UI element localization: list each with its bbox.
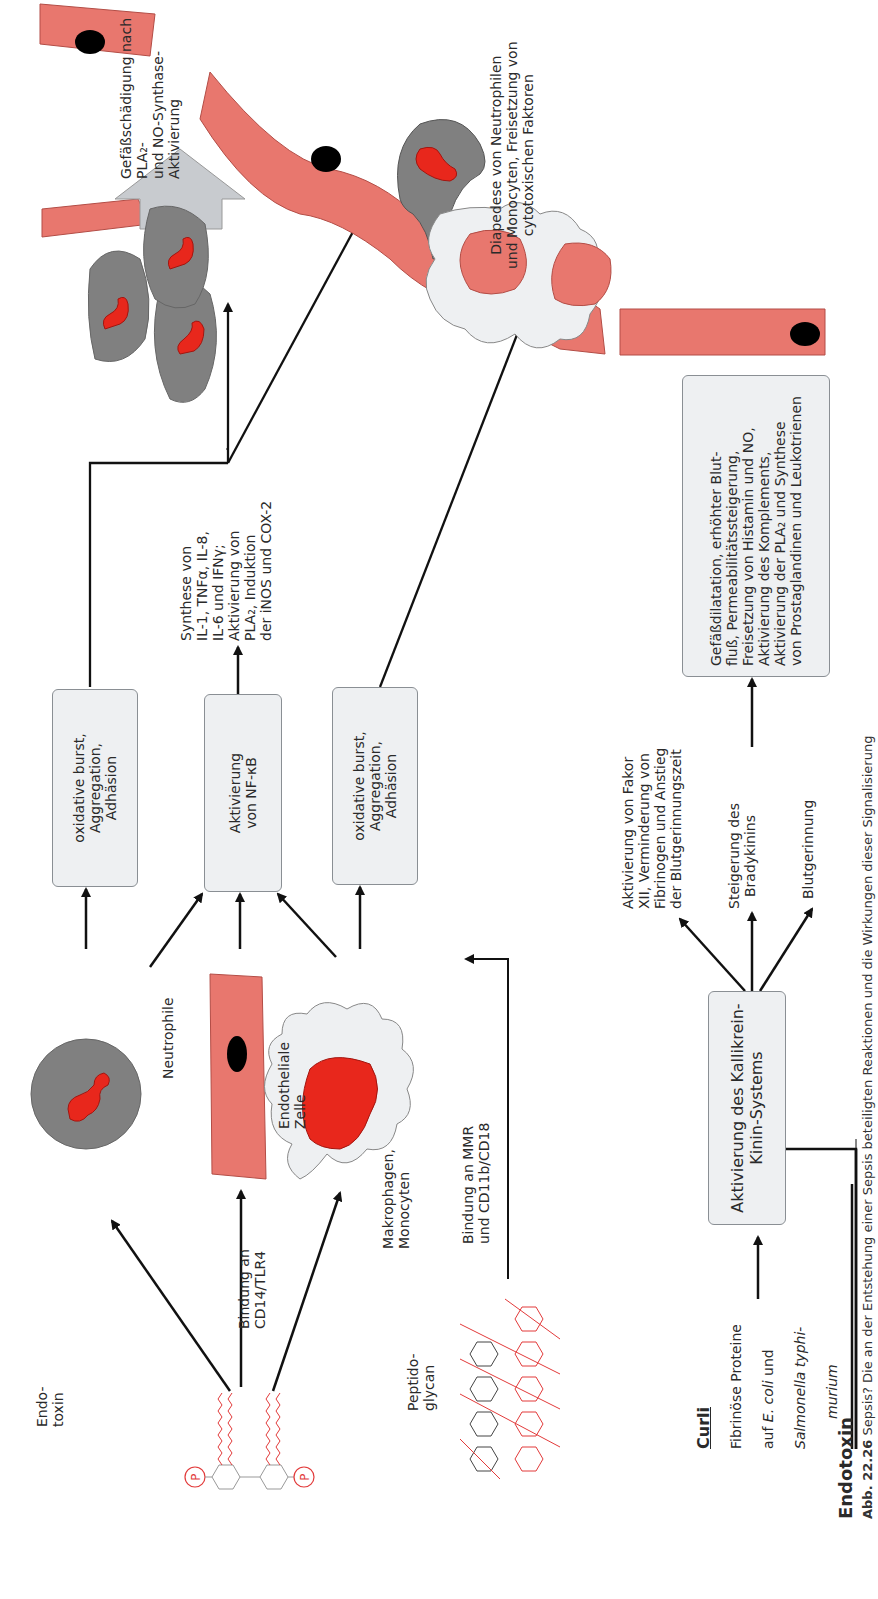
curli-line2-pre: auf [760,1422,776,1449]
svg-text:P: P [189,1473,203,1480]
box-nfkb-activation: Aktivierung von NF-κB [204,694,282,892]
endotoxin-bottom-label: Endotoxin [838,1417,854,1519]
diapedesis-text: Diapedese von Neutrophilen und Monocyten… [488,41,536,269]
box-kallikrein-kinin: Aktivierung des Kallikrein- Kinin-System… [708,991,786,1225]
neutrophile-label: Neutrophile [160,997,176,1079]
arrow-kallikrein-blutgerinnung [760,909,812,991]
curli-murium: murium [824,1364,840,1419]
arrow-burst-to-macrophages [380,327,520,687]
peptidoglycan-label: Peptido- glycan [405,1353,437,1411]
neutrophil-cell-icon [31,1039,141,1149]
svg-text:P: P [298,1473,312,1480]
arrow-neutrophil-nfkb [150,894,202,967]
peptidoglycan-icon [460,1299,560,1479]
box-neutrophil-oxidative-burst: oxidative burst, Aggregation, Adhäsion [52,689,138,887]
binding-cd14-label: Bindung an CD14/TLR4 [236,1249,268,1329]
figure-caption: Abb. 22.26 Sepsis? Die an der Entstehung… [860,736,875,1519]
endothelial-label: Endotheliale Zelle [276,1042,308,1129]
figure-number: Abb. 22.26 [860,1440,875,1519]
curli-ecoli: E. coli [760,1380,776,1422]
bradykinin-text: Steigerung des Bradykinins [726,803,758,909]
endotoxin-label: Endo- toxin [34,1387,66,1427]
vessel-damage-text: Gefäßschädigung nach PLA₂- und NO-Syntha… [118,0,182,179]
curli-salmonella: Salmonella typhi- [792,1327,808,1449]
blutgerinnung-text: Blutgerinnung [800,800,816,899]
curli-title: Curli [696,1324,712,1449]
arrow-kallikrein-faktorxii [680,919,745,991]
arrow-to-vessel-diapedesis [228,204,368,463]
figure-stage: P P [0,0,878,1599]
makrophagen-label: Makrophagen, Monocyten [380,1149,412,1249]
binding-mmr-label: Bindung an MMR und CD11b/CD18 [460,1123,492,1244]
endothelial-cell-icon [210,974,266,1179]
box-macrophage-oxidative-burst: oxidative burst, Aggregation, Adhäsion [332,687,418,885]
arrow-lps-macrophage [273,1193,340,1391]
faktor-xii-text: Aktivierung von Fakor XII, Verminderung … [620,748,684,909]
arrow-lps-neutrophil [112,1221,230,1391]
aggregated-neutrophils-icon [88,206,216,402]
figure-caption-text: Sepsis? Die an der Entstehung einer Seps… [860,736,875,1436]
box-vascular-effects: Gefäßdilatation, erhöhter Blut- fluß, Pe… [682,375,830,677]
cytokine-synthesis-text: Synthese von IL-1, TNFα, IL-8, IL-6 und … [178,501,274,641]
arrow-macrophage-nfkb [278,894,336,957]
curli-line2-post: und [760,1349,776,1380]
lps-molecule-icon: P P [185,1393,314,1489]
curli-line1: Fibrinöse Proteine [728,1324,744,1449]
curli-block: Curli Fibrinöse Proteine auf E. coli und… [680,1324,856,1449]
